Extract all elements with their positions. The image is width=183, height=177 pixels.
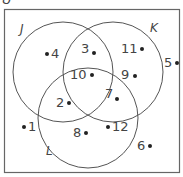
set-k-label: K [150, 22, 158, 34]
element-12-dot [106, 125, 110, 129]
element-10-label: 10 [70, 68, 87, 81]
element-7-label: 7 [105, 87, 113, 100]
element-2-label: 2 [56, 96, 64, 109]
element-9-label: 9 [121, 68, 129, 81]
element-11-dot [140, 47, 144, 51]
element-5-dot [175, 61, 179, 65]
element-1-label: 1 [28, 120, 36, 133]
set-l-label: L [46, 145, 53, 157]
element-1-dot [22, 125, 26, 129]
universal-set-label: U [2, 0, 12, 6]
element-9-dot [133, 74, 137, 78]
element-7-dot [115, 97, 119, 101]
element-4-label: 4 [51, 47, 59, 60]
element-3-label: 3 [81, 42, 89, 55]
element-10-dot [90, 73, 94, 77]
element-5-label: 5 [164, 56, 172, 69]
element-6-dot [148, 144, 152, 148]
element-8-dot [84, 131, 88, 135]
set-l-circle [38, 68, 138, 168]
element-11-label: 11 [121, 42, 138, 55]
element-8-label: 8 [73, 126, 81, 139]
element-4-dot [45, 52, 49, 56]
element-12-label: 12 [112, 120, 129, 133]
set-j-label: J [20, 23, 24, 35]
element-2-dot [67, 101, 71, 105]
element-3-dot [92, 51, 96, 55]
element-6-label: 6 [137, 139, 145, 152]
